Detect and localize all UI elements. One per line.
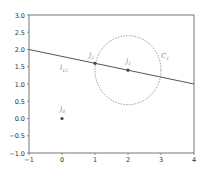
- x-tick-label: −1: [24, 156, 34, 164]
- y-tick-label: 3.0: [15, 12, 25, 20]
- x-axis: −1 0 1 2 3 4: [24, 153, 196, 164]
- point-j2: [93, 62, 96, 65]
- plot-area: [29, 15, 194, 153]
- y-tick-label: 1.5: [15, 63, 25, 71]
- point-j0: [60, 117, 63, 120]
- y-axis: −1.0 −0.5 0.0 0.5 1.0 1.5 2.0 2.5 3.0: [9, 12, 29, 158]
- x-tick-label: 1: [93, 156, 97, 164]
- x-tick-label: 2: [126, 156, 130, 164]
- x-tick-label: 0: [60, 156, 64, 164]
- figure: −1.0 −0.5 0.0 0.5 1.0 1.5 2.0 2.5 3.0 −1…: [0, 0, 208, 171]
- y-tick-label: 2.5: [15, 29, 25, 37]
- point-j1: [126, 69, 129, 72]
- y-tick-label: −1.0: [9, 150, 25, 158]
- y-tick-label: 0.0: [15, 115, 25, 123]
- y-tick-label: 2.0: [15, 46, 25, 54]
- x-tick-label: 3: [159, 156, 163, 164]
- y-tick-label: −0.5: [9, 132, 25, 140]
- y-tick-label: 1.0: [15, 81, 25, 89]
- x-tick-label: 4: [192, 156, 196, 164]
- y-tick-label: 0.5: [15, 98, 25, 106]
